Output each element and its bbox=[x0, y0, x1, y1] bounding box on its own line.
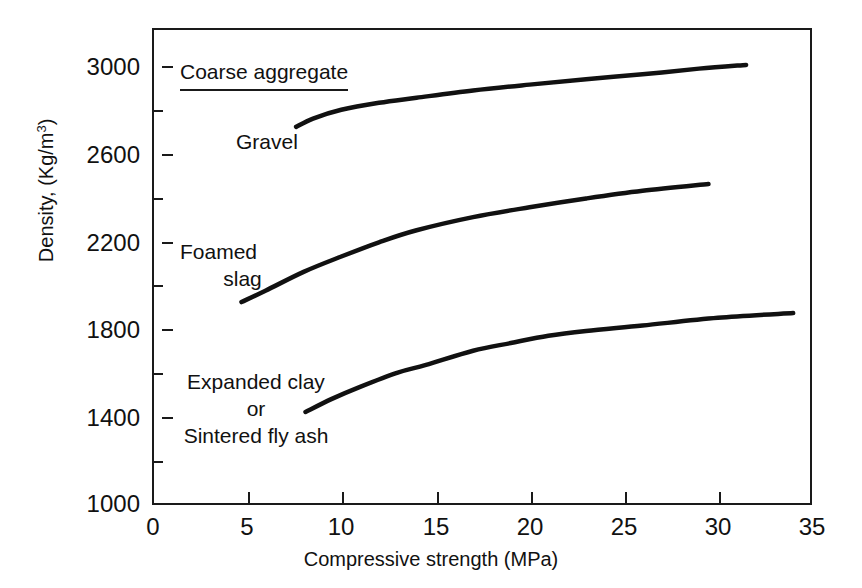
xtick-30 bbox=[719, 492, 721, 503]
ytick-2600 bbox=[162, 154, 173, 156]
series-label-expanded-line3: Sintered fly ash bbox=[168, 423, 344, 450]
xtick-10 bbox=[342, 492, 344, 503]
series-label-gravel: Gravel bbox=[236, 129, 298, 156]
xtick-label-0: 0 bbox=[123, 513, 183, 541]
xtick-5 bbox=[248, 492, 250, 503]
ytick-label-2600: 2600 bbox=[44, 141, 140, 169]
series-label-foamed-line2: slag bbox=[180, 266, 305, 293]
xtick-label-30: 30 bbox=[688, 513, 748, 541]
xtick-label-25: 25 bbox=[594, 513, 654, 541]
chart-canvas: 3000 2600 2200 1800 1400 1000 0 5 10 15 … bbox=[0, 0, 862, 588]
xtick-20 bbox=[531, 492, 533, 503]
ytick-label-1800: 1800 bbox=[44, 316, 140, 344]
ytick-3000 bbox=[162, 66, 173, 68]
xtick-label-20: 20 bbox=[500, 513, 560, 541]
ytick-1200 bbox=[154, 461, 163, 463]
xtick-25 bbox=[625, 492, 627, 503]
series-label-expanded-line1: Expanded clay bbox=[168, 369, 344, 396]
ytick-label-1400: 1400 bbox=[44, 404, 140, 432]
ytick-1600 bbox=[154, 373, 163, 375]
xtick-label-35: 35 bbox=[782, 513, 842, 541]
xtick-label-15: 15 bbox=[406, 513, 466, 541]
y-axis-title-tail: ) bbox=[35, 119, 57, 126]
ytick-2800 bbox=[154, 110, 163, 112]
y-axis-title-text: Density, (Kg/m bbox=[35, 132, 57, 262]
series-label-foamed-line1: Foamed bbox=[180, 239, 305, 266]
ytick-2400 bbox=[154, 198, 163, 200]
series-label-expanded-clay: Expanded clay or Sintered fly ash bbox=[168, 369, 344, 450]
xtick-label-5: 5 bbox=[217, 513, 277, 541]
xtick-15 bbox=[437, 492, 439, 503]
series-label-expanded-line2: or bbox=[168, 396, 344, 423]
ytick-2000 bbox=[154, 285, 163, 287]
ytick-label-3000: 3000 bbox=[44, 53, 140, 81]
legend-title-coarse-aggregate: Coarse aggregate bbox=[180, 59, 348, 91]
x-axis-title-text: Compressive strength (MPa) bbox=[304, 548, 559, 570]
series-label-foamed-slag: Foamed slag bbox=[180, 239, 305, 293]
y-axis-title-exponent: 3 bbox=[34, 125, 49, 132]
xtick-label-10: 10 bbox=[311, 513, 371, 541]
ytick-1800 bbox=[162, 329, 173, 331]
plot-frame: Coarse aggregate Gravel Foamed slag Expa… bbox=[152, 28, 812, 505]
ytick-label-2200: 2200 bbox=[44, 229, 140, 257]
y-axis-title: Density, (Kg/m3) bbox=[34, 60, 59, 320]
ytick-2200 bbox=[162, 242, 173, 244]
x-axis-title: Compressive strength (MPa) bbox=[0, 548, 862, 571]
